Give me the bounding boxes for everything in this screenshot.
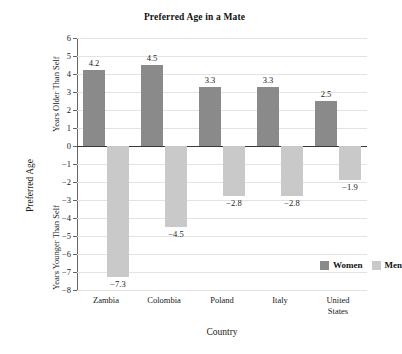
tick-mark xyxy=(73,110,77,111)
tick-mark xyxy=(73,38,77,39)
bar-value-men: −7.3 xyxy=(98,279,138,289)
tick-mark xyxy=(73,146,77,147)
tick-mark xyxy=(73,56,77,57)
y-tick-label: −8 xyxy=(62,285,71,295)
y-tick-label: 2 xyxy=(67,105,71,115)
tick-mark xyxy=(73,74,77,75)
legend-entry-men: Men xyxy=(372,260,402,270)
bar-value-men: −2.8 xyxy=(214,198,254,208)
category-label: Colombia xyxy=(135,295,193,306)
bar-value-women: 2.5 xyxy=(306,89,346,99)
gridline xyxy=(77,290,367,291)
bar-men xyxy=(107,146,129,277)
y-tick-label: 5 xyxy=(67,51,71,61)
bar-women xyxy=(315,101,337,146)
y-tick-label: 1 xyxy=(67,123,71,133)
bar-value-women: 4.5 xyxy=(132,53,172,63)
legend-swatch-men-icon xyxy=(372,261,381,270)
bar-men xyxy=(281,146,303,196)
category-label: Poland xyxy=(193,295,251,306)
category-label: Italy xyxy=(251,295,309,306)
legend-entry-women: Women xyxy=(320,260,363,270)
bar-value-women: 3.3 xyxy=(248,75,288,85)
bar-women xyxy=(199,87,221,146)
y-tick-label: 3 xyxy=(67,87,71,97)
y-axis-label: Preferred Age xyxy=(26,159,36,212)
tick-mark xyxy=(73,218,77,219)
y-tick-label: 0 xyxy=(67,141,71,151)
bar-men xyxy=(223,146,245,196)
legend-label-men: Men xyxy=(385,260,402,270)
tick-mark xyxy=(73,290,77,291)
legend-swatch-women-icon xyxy=(320,261,329,270)
tick-mark xyxy=(73,254,77,255)
tick-mark xyxy=(73,182,77,183)
y-tick-label: −7 xyxy=(62,267,71,277)
tick-mark xyxy=(73,200,77,201)
tick-mark xyxy=(73,164,77,165)
bar-value-men: −2.8 xyxy=(272,198,312,208)
bar-value-men: −1.9 xyxy=(330,182,370,192)
category-label: United States xyxy=(309,295,367,316)
tick-mark xyxy=(73,92,77,93)
tick-mark xyxy=(73,128,77,129)
chart-title: Preferred Age in a Mate xyxy=(0,12,389,22)
bar-men xyxy=(165,146,187,227)
bar-value-women: 3.3 xyxy=(190,75,230,85)
y-tick-label: −1 xyxy=(62,159,71,169)
gridline xyxy=(77,38,367,39)
gridline xyxy=(77,56,367,57)
plot-area: 4.2−7.34.5−4.53.3−2.83.3−2.82.5−1.9 Wome… xyxy=(77,38,367,290)
tick-mark xyxy=(73,272,77,273)
y-axis-label-lower: Years Younger Than Self xyxy=(52,205,61,290)
y-tick-label: −4 xyxy=(62,213,71,223)
y-tick-label: 4 xyxy=(67,69,71,79)
bar-men xyxy=(339,146,361,180)
legend: Women Men xyxy=(320,260,402,270)
bar-women xyxy=(257,87,279,146)
y-tick-label: −5 xyxy=(62,231,71,241)
legend-label-women: Women xyxy=(333,260,363,270)
bar-value-women: 4.2 xyxy=(74,58,114,68)
bar-women xyxy=(83,70,105,146)
y-tick-label: 6 xyxy=(67,33,71,43)
bar-value-men: −4.5 xyxy=(156,229,196,239)
y-tick-label: −2 xyxy=(62,177,71,187)
x-axis-label: Country xyxy=(77,327,367,337)
category-label: Zambia xyxy=(77,295,135,306)
y-axis-label-upper: Years Older Than Self xyxy=(52,56,61,132)
bar-women xyxy=(141,65,163,146)
tick-mark xyxy=(73,236,77,237)
y-tick-label: −6 xyxy=(62,249,71,259)
y-tick-label: −3 xyxy=(62,195,71,205)
